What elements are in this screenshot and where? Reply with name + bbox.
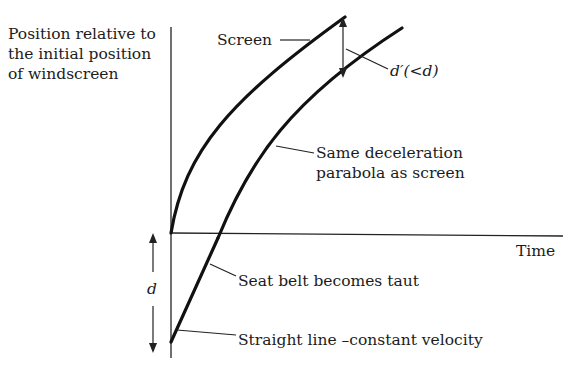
parabola-label: Same deceleration parabola as screen	[316, 144, 468, 182]
position-time-diagram: Position relative to the initial positio…	[0, 0, 583, 376]
parabola-leader	[276, 146, 314, 153]
y-axis-label: Position relative to the initial positio…	[8, 25, 161, 83]
taut-label: Seat belt becomes taut	[238, 272, 420, 290]
x-axis	[171, 233, 563, 236]
occupant-parabola	[218, 28, 402, 238]
d-arrowhead-down	[149, 343, 157, 353]
screen-label: Screen	[217, 31, 272, 49]
straight-leader	[177, 330, 236, 335]
screen-curve	[171, 17, 345, 233]
taut-leader	[210, 264, 236, 276]
d-arrowhead-up	[149, 233, 157, 243]
straight-label: Straight line –constant velocity	[238, 331, 483, 349]
d-prime-label: d′(<d)	[390, 62, 438, 80]
d-label: d	[147, 280, 157, 298]
occupant-straight-line	[171, 238, 218, 342]
x-axis-label: Time	[516, 242, 555, 260]
